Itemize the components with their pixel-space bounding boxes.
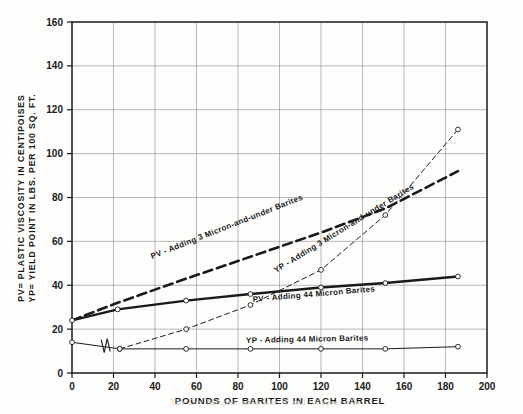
svg-text:20: 20: [52, 324, 64, 335]
svg-text:100: 100: [271, 381, 288, 392]
svg-text:0: 0: [69, 381, 75, 392]
svg-text:140: 140: [46, 60, 63, 71]
annotation-pv-3micron: PV - Adding 3 Micron-and-under Barites: [149, 193, 304, 261]
svg-text:40: 40: [52, 280, 64, 291]
svg-text:160: 160: [46, 17, 63, 28]
svg-text:160: 160: [396, 381, 413, 392]
svg-text:200: 200: [479, 381, 496, 392]
y-tick-labels: 020406080100120140160: [46, 17, 63, 379]
svg-text:60: 60: [191, 381, 203, 392]
svg-text:20: 20: [108, 381, 120, 392]
svg-text:80: 80: [232, 381, 244, 392]
x-tick-labels: 020406080100120140160180200: [69, 381, 496, 392]
axis-ticks: [67, 22, 487, 378]
svg-text:180: 180: [437, 381, 454, 392]
svg-text:100: 100: [46, 148, 63, 159]
series-annotations: PV - Adding 3 Micron-and-under BaritesYP…: [149, 182, 415, 345]
svg-text:120: 120: [313, 381, 330, 392]
y-axis-label-line1: PV= PLASTIC VISCOSITY IN CENTIPOISES: [16, 94, 26, 301]
data-series-group: [70, 127, 461, 351]
series-1: [117, 127, 460, 351]
axis-break-symbol: [101, 339, 110, 353]
svg-text:40: 40: [149, 381, 161, 392]
grid-lines: [72, 22, 487, 373]
chart-canvas: 020406080100120140160180200 020406080100…: [0, 0, 523, 414]
svg-text:60: 60: [52, 236, 64, 247]
y-axis-label-line2: YP= YIELD POINT IN LBS. PER 100 SQ. FT.: [27, 93, 37, 302]
svg-text:80: 80: [52, 192, 64, 203]
annotation-yp-44micron: YP - Adding 44 Micron Barites: [246, 333, 369, 345]
svg-text:140: 140: [354, 381, 371, 392]
svg-text:120: 120: [46, 104, 63, 115]
bleed-through-caption: The Dry Mixture with Icteric and Summerv…: [170, 397, 361, 407]
svg-text:0: 0: [57, 368, 63, 379]
chart-figure: The Dry Mixture with Icteric and Summerv…: [0, 0, 523, 414]
